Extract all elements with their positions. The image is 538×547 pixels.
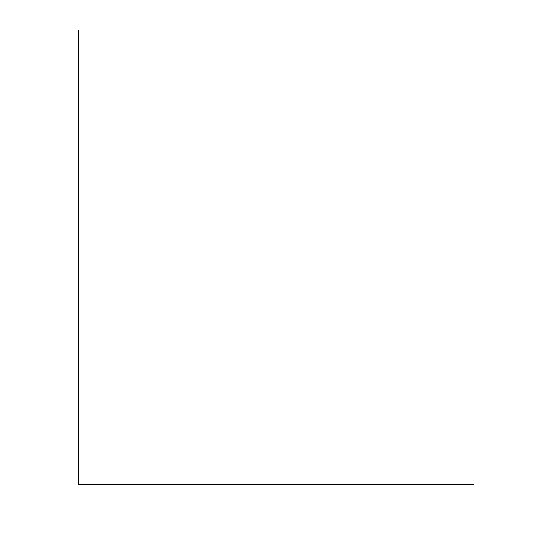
x-axis-line xyxy=(78,484,474,485)
y-axis-label xyxy=(0,0,28,547)
y-axis-tick-labels xyxy=(28,0,72,547)
y-axis-line xyxy=(78,30,79,485)
plot-area xyxy=(100,30,473,484)
x-axis-tick-labels xyxy=(0,489,538,511)
stacked-area-svg xyxy=(100,30,473,484)
census-age-structure-area-chart xyxy=(0,0,538,547)
